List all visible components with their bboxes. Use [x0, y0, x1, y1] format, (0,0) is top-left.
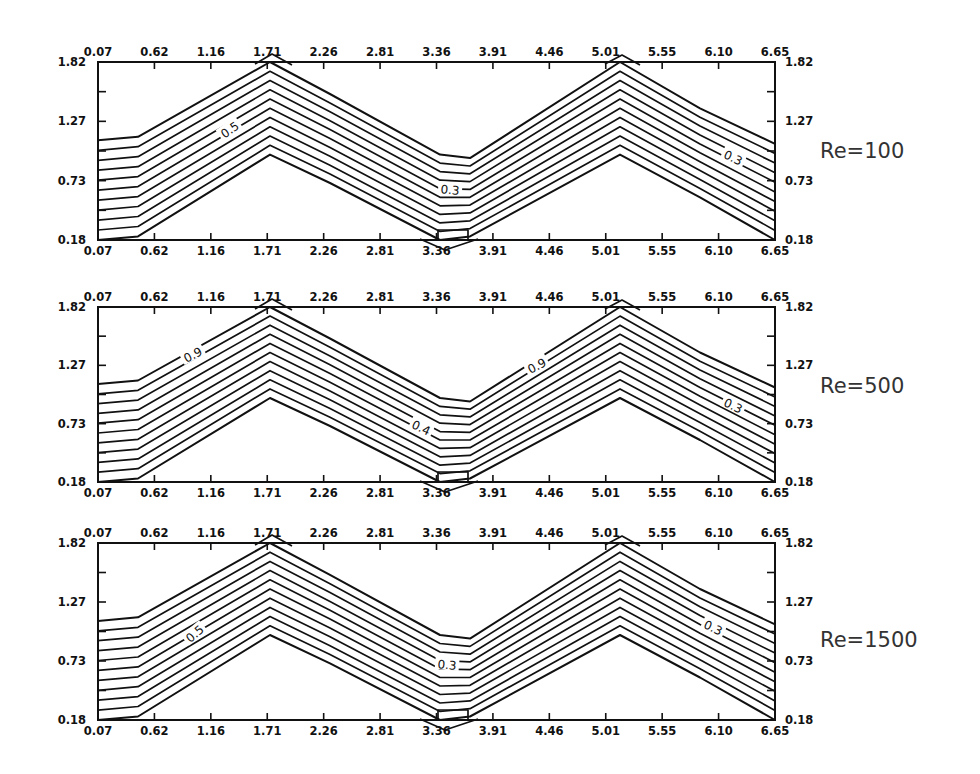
x-tick-label-bottom: 0.07 [84, 724, 112, 738]
x-tick-label-bottom: 2.26 [309, 244, 337, 258]
contour-label: 0.3 [440, 182, 460, 198]
x-tick-label-top: 5.55 [648, 290, 676, 304]
x-tick-label-bottom: 6.10 [704, 486, 732, 500]
x-tick-label-top: 2.81 [366, 45, 394, 59]
x-tick-label-bottom: 3.91 [479, 724, 507, 738]
x-tick-label-top: 5.55 [648, 526, 676, 540]
x-tick-label-bottom: 4.46 [535, 244, 563, 258]
streamline-contour [98, 380, 775, 465]
x-tick-label-bottom: 5.01 [592, 724, 620, 738]
y-tick-label-left: 1.27 [58, 595, 86, 609]
lower-wall [98, 635, 775, 720]
x-tick-label-bottom: 3.91 [479, 486, 507, 500]
x-tick-label-top: 0.62 [140, 45, 168, 59]
x-tick-label-bottom: 3.91 [479, 244, 507, 258]
x-tick-label-top: 0.07 [84, 45, 112, 59]
x-tick-label-top: 1.16 [197, 290, 225, 304]
y-tick-label-left: 1.82 [58, 536, 86, 550]
y-tick-label-right: 0.73 [785, 174, 813, 188]
streamline-contour [98, 389, 775, 474]
lower-wall [98, 398, 775, 482]
y-tick-label-right: 0.18 [785, 475, 813, 489]
x-tick-label-top: 0.62 [140, 526, 168, 540]
streamline-contour [98, 136, 775, 223]
y-tick-label-left: 0.73 [58, 417, 86, 431]
y-tick-label-left: 1.27 [58, 114, 86, 128]
contour-label: 0.3 [437, 657, 457, 673]
x-tick-label-bottom: 5.01 [592, 244, 620, 258]
contour-figure: 0.070.070.620.621.161.161.711.712.262.26… [0, 0, 980, 774]
x-tick-label-top: 4.46 [535, 290, 563, 304]
streamline-contour [98, 99, 775, 189]
reynolds-label: Re=500 [820, 374, 904, 398]
x-tick-label-bottom: 2.26 [309, 724, 337, 738]
x-tick-label-bottom: 0.62 [140, 724, 168, 738]
y-tick-label-left: 0.73 [58, 654, 86, 668]
y-tick-label-right: 1.82 [785, 536, 813, 550]
x-tick-label-bottom: 1.71 [253, 724, 281, 738]
x-tick-label-top: 2.81 [366, 290, 394, 304]
x-tick-label-bottom: 2.81 [366, 244, 394, 258]
x-tick-label-top: 5.01 [592, 290, 620, 304]
x-tick-label-top: 0.07 [84, 526, 112, 540]
reynolds-label: Re=100 [820, 139, 904, 163]
y-tick-label-left: 1.27 [58, 358, 86, 372]
x-tick-label-top: 6.10 [704, 290, 732, 304]
y-tick-label-right: 1.27 [785, 114, 813, 128]
x-tick-label-bottom: 2.26 [309, 486, 337, 500]
x-tick-label-bottom: 1.16 [197, 724, 225, 738]
y-tick-label-left: 0.18 [58, 713, 86, 727]
y-tick-label-right: 1.82 [785, 300, 813, 314]
x-tick-label-bottom: 5.55 [648, 486, 676, 500]
x-tick-label-top: 4.46 [535, 526, 563, 540]
streamline-contour [98, 90, 775, 182]
x-tick-label-bottom: 5.55 [648, 244, 676, 258]
x-tick-label-bottom: 4.46 [535, 724, 563, 738]
x-tick-label-bottom: 0.07 [84, 486, 112, 500]
y-tick-label-left: 1.82 [58, 55, 86, 69]
x-tick-label-top: 2.81 [366, 526, 394, 540]
x-tick-label-top: 3.91 [479, 290, 507, 304]
x-tick-label-top: 5.55 [648, 45, 676, 59]
x-tick-label-top: 4.46 [535, 45, 563, 59]
x-tick-label-top: 6.10 [704, 526, 732, 540]
x-tick-label-top: 3.36 [422, 290, 450, 304]
x-tick-label-bottom: 2.81 [366, 724, 394, 738]
y-tick-label-right: 1.27 [785, 358, 813, 372]
x-tick-label-bottom: 6.10 [704, 724, 732, 738]
y-tick-label-right: 1.82 [785, 55, 813, 69]
y-tick-label-right: 1.27 [785, 595, 813, 609]
x-tick-label-top: 2.26 [309, 45, 337, 59]
x-tick-label-bottom: 0.07 [84, 244, 112, 258]
x-tick-label-bottom: 5.55 [648, 724, 676, 738]
panel-1: 0.070.070.620.621.161.161.711.712.262.26… [58, 45, 905, 258]
x-tick-label-bottom: 2.81 [366, 486, 394, 500]
x-tick-label-top: 1.16 [197, 45, 225, 59]
streamline-contour [98, 571, 775, 662]
x-tick-label-top: 3.91 [479, 45, 507, 59]
x-tick-label-bottom: 1.71 [253, 244, 281, 258]
x-tick-label-top: 6.10 [704, 45, 732, 59]
x-tick-label-top: 3.36 [422, 45, 450, 59]
x-tick-label-top: 3.36 [422, 526, 450, 540]
x-tick-label-bottom: 0.62 [140, 486, 168, 500]
x-tick-label-bottom: 1.71 [253, 486, 281, 500]
y-tick-label-left: 0.18 [58, 233, 86, 247]
panel-3: 0.070.070.620.621.161.161.711.712.262.26… [58, 526, 918, 738]
lower-wall [98, 155, 775, 240]
y-tick-label-right: 0.73 [785, 417, 813, 431]
x-tick-label-bottom: 0.62 [140, 244, 168, 258]
panel-2: 0.070.070.620.621.161.161.711.712.262.26… [58, 290, 905, 500]
x-tick-label-bottom: 4.46 [535, 486, 563, 500]
x-tick-label-top: 2.26 [309, 290, 337, 304]
streamline-contour [98, 145, 775, 231]
x-tick-label-top: 0.07 [84, 290, 112, 304]
x-tick-label-top: 5.01 [592, 45, 620, 59]
x-tick-label-top: 1.16 [197, 526, 225, 540]
x-tick-label-bottom: 1.16 [197, 244, 225, 258]
y-tick-label-left: 1.82 [58, 300, 86, 314]
x-tick-label-top: 0.62 [140, 290, 168, 304]
x-tick-label-top: 2.26 [309, 526, 337, 540]
y-tick-label-right: 0.73 [785, 654, 813, 668]
x-tick-label-bottom: 6.10 [704, 244, 732, 258]
